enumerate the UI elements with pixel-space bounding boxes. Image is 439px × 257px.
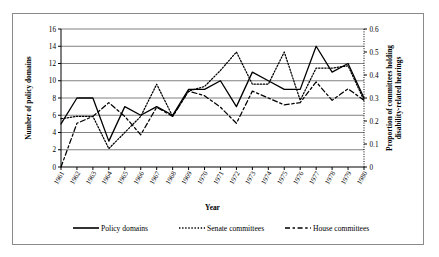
x-tick-label: 1973 <box>244 170 258 187</box>
x-tick-label: 1964 <box>100 170 114 187</box>
x-tick-label: 1980 <box>355 170 369 187</box>
y-tick-label-left: 12 <box>49 60 57 68</box>
x-axis-title: Year <box>205 203 220 212</box>
x-tick-label: 1966 <box>132 170 146 187</box>
x-tick-label: 1978 <box>323 170 337 187</box>
y-tick-label-left: 0 <box>52 164 56 172</box>
legend-item-policy-domains: Policy domains <box>73 224 148 233</box>
chart-svg: 024681012141600.10.20.30.40.50.619611962… <box>13 14 425 246</box>
y-tick-label-left: 6 <box>52 112 56 120</box>
y-tick-label-right: 0.6 <box>370 26 379 34</box>
x-tick-label: 1979 <box>339 170 353 187</box>
x-tick-label: 1961 <box>52 170 66 187</box>
x-tick-label: 1969 <box>180 170 194 187</box>
legend-label: House committees <box>313 224 369 233</box>
y-tick-label-right: 0.3 <box>370 95 379 103</box>
y-tick-label-left: 14 <box>49 43 57 51</box>
legend-label: Senate committees <box>207 224 264 233</box>
chart-figure: 024681012141600.10.20.30.40.50.619611962… <box>13 14 425 246</box>
x-tick-label: 1972 <box>228 170 242 187</box>
y-tick-label-right: 0.1 <box>370 141 379 149</box>
y-tick-label-right: 0.2 <box>370 118 379 126</box>
x-tick-label: 1971 <box>212 170 226 187</box>
x-tick-label: 1977 <box>307 170 321 187</box>
x-tick-label: 1968 <box>164 170 178 187</box>
y-axis-title-right: Proportion of committees holding <box>385 45 394 151</box>
y-tick-label-left: 16 <box>49 26 57 34</box>
y-tick-label-left: 8 <box>52 95 56 103</box>
x-tick-label: 1967 <box>148 170 162 187</box>
y-tick-label-right: 0 <box>370 164 374 172</box>
x-tick-label: 1970 <box>196 170 210 187</box>
y-tick-label-right: 0.5 <box>370 49 379 57</box>
legend-item-senate-committees: Senate committees <box>179 224 264 233</box>
y-axis-title-left: Number of policy domains <box>24 56 33 140</box>
x-tick-label: 1965 <box>116 170 130 187</box>
y-tick-label-left: 2 <box>52 146 56 154</box>
x-tick-label: 1976 <box>292 170 306 187</box>
y-axis-title-right: disability-related hearings <box>394 57 403 140</box>
y-tick-label-left: 10 <box>49 77 57 85</box>
y-tick-label-right: 0.4 <box>370 72 379 80</box>
legend-item-house-committees: House committees <box>285 224 369 233</box>
x-tick-label: 1963 <box>84 170 98 187</box>
y-tick-label-left: 4 <box>52 129 56 137</box>
x-tick-label: 1975 <box>276 170 290 187</box>
x-tick-label: 1962 <box>68 170 82 187</box>
legend-label: Policy domains <box>101 224 148 233</box>
x-tick-label: 1974 <box>260 170 274 187</box>
figure-frame: 024681012141600.10.20.30.40.50.619611962… <box>12 13 424 245</box>
